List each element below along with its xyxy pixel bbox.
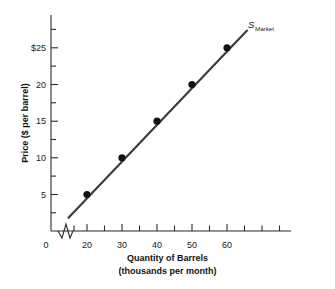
series-label-s: S: [248, 19, 255, 30]
x-tick-label-50: 50: [187, 240, 197, 250]
x-tick-label-60: 60: [222, 240, 232, 250]
series-label-subscript-market: Market: [255, 25, 274, 32]
data-point-40-15[interactable]: [153, 118, 160, 125]
x-axis-title-line1: Quantity of Barrels: [0, 252, 335, 265]
y-tick-label-25: $25: [31, 43, 46, 53]
y-tick-label-10: 10: [36, 153, 46, 163]
y-axis-major-ticks: [51, 48, 58, 195]
data-point-20-5[interactable]: [83, 191, 90, 198]
x-axis-title-line2: (thousands per month): [0, 265, 335, 278]
data-point-30-10[interactable]: [118, 154, 125, 161]
chart-plot-area: $25 20 15 10 5 0 20 30 40 50 60 S Market: [0, 0, 335, 289]
x-axis-title: Quantity of Barrels (thousands per month…: [0, 252, 335, 277]
supply-curve-chart: $25 20 15 10 5 0 20 30 40 50 60 S Market…: [0, 0, 335, 289]
x-tick-label-40: 40: [152, 240, 162, 250]
y-tick-label-15: 15: [36, 116, 46, 126]
x-axis-minor-ticks: [74, 226, 280, 232]
supply-curve-data-points[interactable]: [83, 44, 230, 198]
x-tick-label-30: 30: [117, 240, 127, 250]
y-tick-label-5: 5: [41, 190, 46, 200]
data-point-60-25[interactable]: [223, 44, 230, 51]
x-axis-major-ticks: [87, 224, 227, 231]
origin-label: 0: [43, 240, 48, 250]
x-tick-label-20: 20: [82, 240, 92, 250]
data-point-50-20[interactable]: [188, 81, 195, 88]
y-axis-title: Price ($ per barrel): [20, 43, 30, 203]
y-tick-label-20: 20: [36, 80, 46, 90]
